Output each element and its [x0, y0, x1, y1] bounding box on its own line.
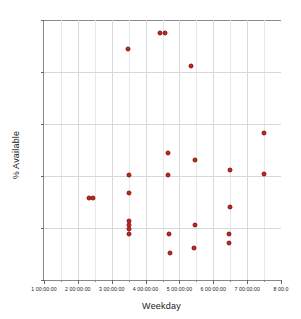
y-gridline — [44, 72, 281, 73]
x-gridline — [247, 20, 248, 280]
x-tick-label: 5 00:00:00 — [167, 286, 193, 292]
scatter-point — [262, 131, 267, 136]
scatter-point — [228, 204, 233, 209]
scatter-point — [126, 172, 131, 177]
y-tick-mark — [41, 72, 44, 73]
scatter-point — [165, 172, 170, 177]
scatter-point — [227, 167, 232, 172]
x-tick-mark-minor — [163, 280, 164, 282]
x-gridline — [112, 20, 113, 280]
y-gridline — [44, 176, 281, 177]
y-tick-mark — [41, 280, 44, 281]
x-gridline-minor — [61, 20, 62, 280]
x-tick-mark — [112, 280, 113, 284]
scatter-point — [126, 190, 131, 195]
x-gridline — [213, 20, 214, 280]
scatter-point — [165, 150, 170, 155]
x-tick-mark — [247, 280, 248, 284]
scatter-point — [192, 245, 197, 250]
x-tick-mark-minor — [264, 280, 265, 282]
x-tick-mark-minor — [95, 280, 96, 282]
x-tick-mark-minor — [230, 280, 231, 282]
y-gridline — [44, 124, 281, 125]
x-tick-label: 3 00:00:00 — [99, 286, 125, 292]
scatter-point — [126, 231, 131, 236]
x-tick-label: 8 00:0 — [273, 286, 288, 292]
x-tick-mark — [146, 280, 147, 284]
x-gridline-minor — [129, 20, 130, 280]
x-gridline-minor — [95, 20, 96, 280]
x-gridline-minor — [264, 20, 265, 280]
scatter-chart-figure: % Available 1 00:00:002 00:00:003 00:00:… — [0, 0, 301, 319]
plot-area: 1 00:00:002 00:00:003 00:00:004 00:00:00… — [43, 20, 281, 281]
scatter-point — [91, 195, 96, 200]
x-tick-mark — [78, 280, 79, 284]
scatter-point — [125, 46, 130, 51]
scatter-point — [162, 31, 167, 36]
scatter-point — [262, 171, 267, 176]
x-tick-mark-minor — [196, 280, 197, 282]
scatter-point — [226, 231, 231, 236]
x-tick-label: 4 00:00:00 — [133, 286, 159, 292]
x-gridline-minor — [163, 20, 164, 280]
y-tick-mark — [41, 124, 44, 125]
x-tick-mark — [213, 280, 214, 284]
x-tick-label: 1 00:00:00 — [31, 286, 57, 292]
scatter-point — [167, 250, 172, 255]
x-tick-mark-minor — [61, 280, 62, 282]
scatter-point — [226, 241, 231, 246]
scatter-point — [188, 63, 193, 68]
y-tick-mark — [41, 176, 44, 177]
x-tick-label: 6 00:00:00 — [201, 286, 227, 292]
x-gridline — [179, 20, 180, 280]
x-tick-mark-minor — [129, 280, 130, 282]
x-gridline — [146, 20, 147, 280]
x-tick-label: 2 00:00:00 — [65, 286, 91, 292]
y-tick-mark — [41, 228, 44, 229]
x-tick-label: 7 00:00:00 — [234, 286, 260, 292]
x-tick-mark — [179, 280, 180, 284]
x-tick-mark — [44, 280, 45, 284]
x-tick-mark — [281, 280, 282, 284]
x-gridline — [78, 20, 79, 280]
y-tick-mark — [41, 20, 44, 21]
y-gridline — [44, 228, 281, 229]
x-gridline-minor — [196, 20, 197, 280]
scatter-point — [193, 158, 198, 163]
scatter-point — [167, 231, 172, 236]
scatter-point — [193, 222, 198, 227]
x-axis-label: Weekday — [43, 301, 280, 311]
y-axis-label: % Available — [11, 95, 21, 215]
